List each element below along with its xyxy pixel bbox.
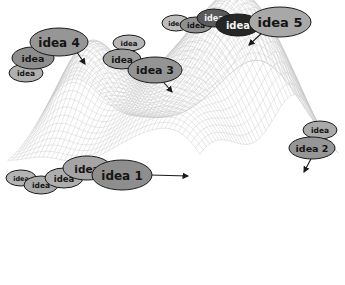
- bubble-shape: [113, 35, 145, 51]
- idea-bubble-primary-idea-2[interactable]: idea 2: [289, 137, 335, 159]
- idea-cluster-idea-5[interactable]: ideaideaideaideaidea 5: [162, 7, 311, 45]
- idea-cluster-idea-2[interactable]: ideaidea 2: [289, 121, 337, 172]
- bubble-shape: [289, 137, 335, 159]
- idea-cluster-idea-4[interactable]: ideaideaidea 4: [9, 28, 88, 82]
- idea-cluster-idea-1[interactable]: ideaideaideaideaidea 1: [6, 156, 188, 194]
- idea-bubble-idea-2-0[interactable]: idea: [303, 121, 337, 139]
- idea-landscape-figure: ideaideaideaideaidea 1ideaidea 2ideaidea…: [0, 0, 345, 285]
- idea-bubble-primary-idea-1[interactable]: idea 1: [92, 160, 152, 190]
- pointer-arrow-idea-1: [150, 175, 188, 176]
- idea-cluster-layer: ideaideaideaideaidea 1ideaidea 2ideaidea…: [0, 0, 345, 285]
- bubble-shape: [30, 28, 88, 56]
- bubble-shape: [128, 57, 182, 83]
- bubble-shape: [92, 160, 152, 190]
- bubble-shape: [303, 121, 337, 139]
- idea-cluster-idea-3[interactable]: ideaideaidea 3: [103, 35, 182, 92]
- idea-bubble-primary-idea-5[interactable]: idea 5: [249, 7, 311, 37]
- idea-bubble-idea-3-0[interactable]: idea: [113, 35, 145, 51]
- bubble-shape: [249, 7, 311, 37]
- idea-bubble-primary-idea-4[interactable]: idea 4: [30, 28, 88, 56]
- idea-bubble-primary-idea-3[interactable]: idea 3: [128, 57, 182, 83]
